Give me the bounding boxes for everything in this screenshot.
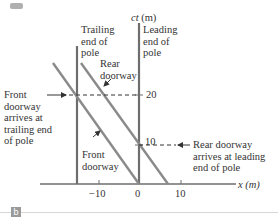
x-axis-label: x (m) — [238, 179, 260, 191]
rear-arrives-label: Rear doorway arrives at leading end of p… — [193, 139, 265, 174]
y-tick-label-20: 20 — [146, 89, 157, 100]
front-doorway-label: Front doorway — [82, 149, 119, 172]
rear-doorway-label: Rear doorway — [100, 58, 137, 81]
leading-end-label: Leading end of pole — [143, 24, 177, 59]
front-arrives-label: Front doorway arrives at trailing end of… — [4, 89, 52, 147]
trailing-end-label: Trailing end of pole — [81, 24, 114, 59]
y-axis-label: ct (m) — [131, 12, 156, 24]
panel-separator — [0, 212, 278, 213]
panel-label-badge: b — [11, 207, 21, 217]
x-tick-label-0: 0 — [135, 188, 140, 199]
y-tick-label-10: 10 — [145, 136, 156, 147]
x-tick-label-10: 10 — [175, 188, 186, 199]
front-doorway-pointer — [93, 131, 100, 137]
x-tick-label-minus10: −10 — [89, 188, 105, 199]
